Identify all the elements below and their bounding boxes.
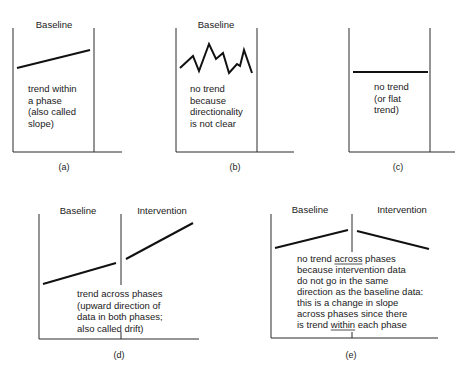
description-line: direction as the baseline data: xyxy=(297,286,423,297)
description-line: slope) xyxy=(28,118,54,129)
phase-label-baseline: Baseline xyxy=(36,19,72,30)
description-line: data in both phases; xyxy=(77,311,163,322)
panel-caption: (b) xyxy=(230,162,241,172)
description-line: is trend within each phase xyxy=(297,319,407,330)
description-line: across phases since there xyxy=(297,308,407,319)
description-line: because xyxy=(190,95,226,106)
description-line: is not clear xyxy=(190,118,236,129)
panel-caption: (d) xyxy=(114,350,125,360)
description-line: (upward direction of xyxy=(77,300,161,311)
trend-diagram-figure: Baselinetrend withina phase(also calleds… xyxy=(0,0,465,370)
description-line: a phase xyxy=(28,95,62,106)
panel-c: no trend(or flattrend)(c) xyxy=(349,28,455,172)
description-line: this is a change in slope xyxy=(297,297,398,308)
phase-label-baseline: Baseline xyxy=(198,19,234,30)
panel-caption: (c) xyxy=(393,162,404,172)
panel-caption: (e) xyxy=(346,350,357,360)
panel-a: Baselinetrend withina phase(also calleds… xyxy=(13,19,122,172)
panel-b: Baselineno trendbecausedirectionalityis … xyxy=(176,19,294,172)
description-line: no trend xyxy=(190,83,225,94)
panel-d: BaselineInterventiontrend across phases(… xyxy=(39,205,199,360)
description-line: do not go in the same xyxy=(297,275,388,286)
description-line: trend across phases xyxy=(77,288,163,299)
description-line: no trend xyxy=(374,81,409,92)
data-path xyxy=(357,231,429,249)
data-path xyxy=(17,50,90,68)
description-line: (also called xyxy=(28,106,76,117)
phase-label-intervention: Intervention xyxy=(137,205,187,216)
data-path xyxy=(180,44,252,73)
description-line: trend) xyxy=(374,104,399,115)
phase-label-baseline: Baseline xyxy=(60,205,96,216)
description-line: directionality xyxy=(190,106,243,117)
description-line: no trend across phases xyxy=(297,253,396,264)
description-line: (or flat xyxy=(374,93,401,104)
description-line: also called drift) xyxy=(77,323,144,334)
phase-label-intervention: Intervention xyxy=(377,204,427,215)
panel-e: BaselineInterventionno trend across phas… xyxy=(271,204,438,360)
data-path xyxy=(275,230,348,248)
data-path xyxy=(126,223,193,259)
data-path xyxy=(43,263,116,284)
phase-label-baseline: Baseline xyxy=(292,204,328,215)
description-line: because intervention data xyxy=(297,264,407,275)
description-line: trend within xyxy=(28,83,77,94)
panel-caption: (a) xyxy=(59,162,70,172)
